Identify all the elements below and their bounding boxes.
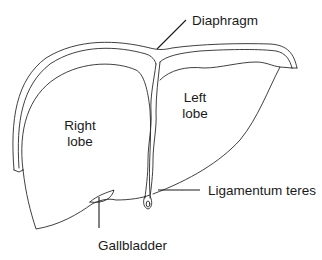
label-diaphragm: Diaphragm (192, 13, 258, 28)
left-lobe-outline (153, 62, 280, 194)
falciform-ligament-right (150, 62, 160, 198)
diaphragm-band-end (14, 170, 23, 172)
diaphragm-inner-line (18, 48, 156, 168)
liver-diagram: Diaphragm Right lobe Left lobe Ligamentu… (0, 0, 322, 260)
label-left-lobe-line1: Left (184, 90, 207, 105)
label-gallbladder: Gallbladder (98, 238, 168, 253)
diaphragm-leader (157, 20, 186, 49)
diaphragm-tip (280, 67, 297, 68)
falciform-ligament-left (145, 64, 156, 198)
label-right-lobe-line1: Right (64, 118, 96, 133)
label-ligamentum-teres: Ligamentum teres (208, 183, 316, 198)
ligamentum-teres-knob (146, 201, 150, 207)
label-right-lobe-line2: lobe (67, 134, 93, 149)
label-left-lobe-line2: lobe (182, 106, 208, 121)
